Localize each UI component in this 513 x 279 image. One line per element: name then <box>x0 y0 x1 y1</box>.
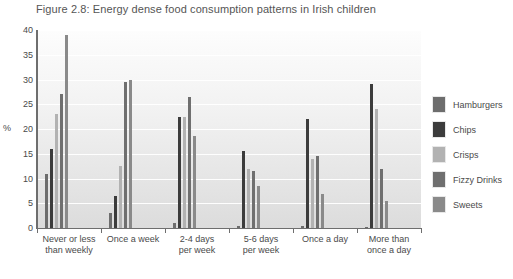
x-tick-4 <box>229 228 230 233</box>
legend-item-sweets[interactable]: Sweets <box>432 192 512 217</box>
x-axis-label-6: More than once a day <box>357 234 421 256</box>
bar-sweets-5 <box>321 194 324 228</box>
bar-group-5 <box>293 30 357 228</box>
x-tick-2 <box>101 228 102 233</box>
bar-sweets-6 <box>385 201 388 228</box>
bar-sweets-4 <box>257 186 260 228</box>
legend-swatch-icon-5 <box>432 196 446 213</box>
x-tick-1 <box>37 228 38 233</box>
legend-swatch-icon-2 <box>432 121 446 138</box>
x-axis-label-1: Never or less than weekly <box>37 234 101 256</box>
legend-item-hamburgers[interactable]: Hamburgers <box>432 92 512 117</box>
bar-groups <box>37 30 421 228</box>
y-tick-label-30: 30 <box>23 75 33 85</box>
x-tick-5 <box>293 228 294 233</box>
x-axis-label-4: 5-6 days per week <box>229 234 293 256</box>
legend-label-2: Chips <box>453 125 476 135</box>
bar-group-4 <box>229 30 293 228</box>
bar-chips-6 <box>370 84 373 228</box>
bar-fizzy-drinks-6 <box>380 169 383 228</box>
bar-group-3 <box>165 30 229 228</box>
bar-group-1 <box>37 30 101 228</box>
bar-crisps-2 <box>119 166 122 228</box>
x-tick-3 <box>165 228 166 233</box>
bar-crisps-3 <box>183 117 186 228</box>
bar-group-6 <box>357 30 421 228</box>
y-tick-label-20: 20 <box>23 124 33 134</box>
x-axis-label-3: 2-4 days per week <box>165 234 229 256</box>
bar-sweets-3 <box>193 136 196 228</box>
legend-label-1: Hamburgers <box>453 100 503 110</box>
bar-crisps-4 <box>247 169 250 228</box>
bar-chips-4 <box>242 151 245 228</box>
x-axis-label-5: Once a day <box>293 234 357 245</box>
y-axis-line <box>36 30 38 229</box>
y-tick-label-25: 25 <box>23 99 33 109</box>
bar-fizzy-drinks-1 <box>60 94 63 228</box>
x-tick-6 <box>357 228 358 233</box>
legend-item-fizzy-drinks[interactable]: Fizzy Drinks <box>432 167 512 192</box>
bar-chips-3 <box>178 117 181 228</box>
bar-sweets-1 <box>65 35 68 228</box>
bar-chips-1 <box>50 149 53 228</box>
legend-item-chips[interactable]: Chips <box>432 117 512 142</box>
legend-label-5: Sweets <box>453 200 483 210</box>
y-axis-unit-label: % <box>3 123 11 133</box>
legend-swatch-icon-4 <box>432 171 446 188</box>
bar-hamburgers-2 <box>109 213 112 228</box>
bar-crisps-5 <box>311 159 314 228</box>
bar-fizzy-drinks-4 <box>252 171 255 228</box>
bar-crisps-1 <box>55 114 58 228</box>
legend-label-4: Fizzy Drinks <box>453 175 502 185</box>
bar-chips-2 <box>114 196 117 228</box>
legend-swatch-icon-3 <box>432 146 446 163</box>
y-tick-label-40: 40 <box>23 25 33 35</box>
y-tick-label-0: 0 <box>28 223 33 233</box>
bar-fizzy-drinks-2 <box>124 82 127 228</box>
y-tick-label-15: 15 <box>23 149 33 159</box>
y-tick-label-10: 10 <box>23 174 33 184</box>
x-axis-label-2: Once a week <box>101 234 165 245</box>
bar-sweets-2 <box>129 80 132 229</box>
legend: HamburgersChipsCrispsFizzy DrinksSweets <box>432 92 512 217</box>
y-tick-label-35: 35 <box>23 50 33 60</box>
legend-label-3: Crisps <box>453 150 479 160</box>
bar-crisps-6 <box>375 109 378 228</box>
bar-group-2 <box>101 30 165 228</box>
x-tick-end <box>421 228 422 233</box>
legend-swatch-icon-1 <box>432 96 446 113</box>
y-tick-label-5: 5 <box>28 198 33 208</box>
bar-hamburgers-1 <box>45 174 48 228</box>
figure-title: Figure 2.8: Energy dense food consumptio… <box>36 3 376 15</box>
legend-item-crisps[interactable]: Crisps <box>432 142 512 167</box>
bar-fizzy-drinks-5 <box>316 156 319 228</box>
bar-chips-5 <box>306 119 309 228</box>
bar-fizzy-drinks-3 <box>188 97 191 228</box>
plot-area <box>37 30 421 228</box>
figure-container: Figure 2.8: Energy dense food consumptio… <box>0 0 513 279</box>
